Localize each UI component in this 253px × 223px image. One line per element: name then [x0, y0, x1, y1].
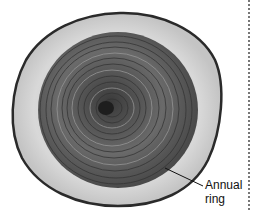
label-line-1: Annual: [205, 178, 242, 192]
pith: [98, 101, 114, 115]
label-line-2: ring: [205, 192, 242, 206]
annual-ring-label: Annual ring: [205, 178, 242, 206]
tree-cross-section-figure: Annual ring: [0, 0, 253, 223]
dotted-divider: [248, 0, 250, 210]
